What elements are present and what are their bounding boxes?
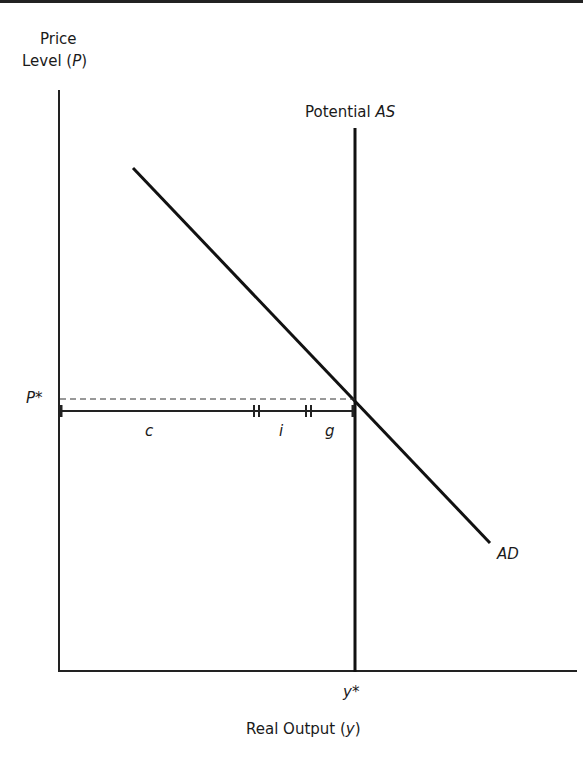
- y-axis-label-line1: Price: [40, 30, 77, 48]
- investment-label: i: [279, 422, 283, 440]
- ad-line: [133, 168, 490, 543]
- ad-as-diagram: [0, 0, 583, 761]
- potential-as-label: Potential AS: [305, 103, 395, 121]
- government-label: g: [325, 422, 335, 440]
- y-axis-label-line2: Level (P): [22, 52, 87, 70]
- consumption-label: c: [145, 422, 153, 440]
- ad-label: AD: [497, 545, 519, 563]
- x-axis-label: Real Output (y): [246, 720, 361, 738]
- p-star-label: P*: [26, 389, 43, 407]
- y-star-label: y*: [343, 683, 359, 701]
